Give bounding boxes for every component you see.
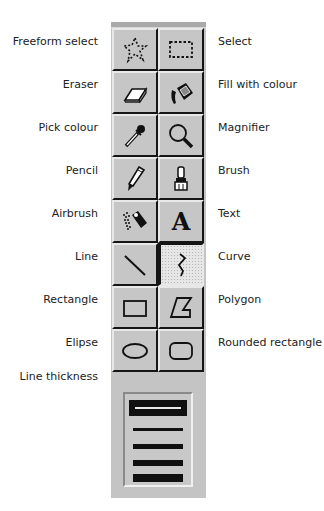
- curve-icon: [167, 250, 197, 280]
- brush-icon: [166, 164, 196, 194]
- line-thickness-option-5[interactable]: [133, 474, 183, 482]
- label-freeform-select: Freeform select: [13, 35, 98, 49]
- label-rounded-rectangle: Rounded rectangle: [218, 336, 322, 350]
- line-thickness-selector: [123, 392, 193, 487]
- tool-row: [112, 329, 205, 372]
- label-line: Line: [75, 250, 98, 264]
- magnifier-icon: [166, 121, 196, 151]
- tool-grid: A: [112, 28, 205, 372]
- eraser-button[interactable]: [112, 71, 158, 114]
- rectangle-icon: [120, 293, 150, 323]
- rectangle-button[interactable]: [112, 286, 158, 329]
- label-brush: Brush: [218, 164, 250, 178]
- label-rectangle: Rectangle: [43, 293, 98, 307]
- label-pencil: Pencil: [66, 164, 98, 178]
- pick-colour-button[interactable]: [112, 114, 158, 157]
- tool-row: [112, 114, 205, 157]
- airbrush-icon: [120, 207, 150, 237]
- label-pick-colour: Pick colour: [39, 121, 98, 135]
- text-button[interactable]: A: [158, 200, 204, 243]
- rounded-rectangle-icon: [166, 336, 196, 366]
- label-text: Text: [218, 207, 240, 221]
- ellipse-button[interactable]: [112, 329, 158, 372]
- select-icon: [166, 35, 196, 65]
- pencil-button[interactable]: [112, 157, 158, 200]
- label-curve: Curve: [218, 250, 250, 264]
- tool-row: [112, 71, 205, 114]
- magnifier-button[interactable]: [158, 114, 204, 157]
- line-thickness-option-3[interactable]: [133, 444, 183, 449]
- paint-toolbox: A: [111, 22, 206, 498]
- eyedropper-icon: [120, 121, 150, 151]
- label-ellipse: Elipse: [65, 336, 98, 350]
- eraser-icon: [120, 78, 150, 108]
- tool-row: [112, 286, 205, 329]
- line-button[interactable]: [112, 243, 158, 286]
- label-line-thickness: Line thickness: [20, 370, 98, 384]
- label-airbrush: Airbrush: [52, 207, 98, 221]
- label-magnifier: Magnifier: [218, 121, 269, 135]
- polygon-icon: [166, 293, 196, 323]
- fill-icon: [166, 78, 196, 108]
- fill-with-colour-button[interactable]: [158, 71, 204, 114]
- line-icon: [120, 250, 150, 280]
- line-thickness-option-4[interactable]: [133, 460, 183, 466]
- airbrush-button[interactable]: [112, 200, 158, 243]
- ellipse-icon: [120, 336, 150, 366]
- tool-row: [112, 157, 205, 200]
- text-icon: A: [172, 210, 191, 234]
- polygon-button[interactable]: [158, 286, 204, 329]
- tool-row: [112, 28, 205, 71]
- line-thickness-option-1[interactable]: [129, 400, 187, 416]
- label-select: Select: [218, 35, 252, 49]
- tool-row: A: [112, 200, 205, 243]
- pencil-icon: [120, 164, 150, 194]
- label-polygon: Polygon: [218, 293, 261, 307]
- label-fill-with-colour: Fill with colour: [218, 78, 297, 92]
- line-thickness-option-2[interactable]: [133, 428, 183, 431]
- freeform-select-button[interactable]: [112, 28, 158, 71]
- tool-row: [112, 243, 205, 286]
- label-eraser: Eraser: [63, 78, 98, 92]
- select-button[interactable]: [158, 28, 204, 71]
- curve-button[interactable]: [158, 243, 204, 286]
- rounded-rectangle-button[interactable]: [158, 329, 204, 372]
- freeform-select-icon: [120, 35, 150, 65]
- brush-button[interactable]: [158, 157, 204, 200]
